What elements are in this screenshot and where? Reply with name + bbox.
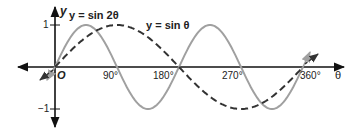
sin2-legend-label: y = sin 2θ: [69, 10, 119, 21]
x-tick-label-360: 360°: [300, 71, 321, 81]
y-axis-label: y: [60, 5, 67, 17]
origin-label: O: [57, 70, 66, 81]
sin1-arrow-left: [40, 70, 53, 80]
y-tick-label-1: 1: [43, 20, 49, 30]
sin1-legend-label: y = sin θ: [146, 20, 190, 31]
y-tick-label-minus1: −1: [38, 104, 49, 114]
x-tick-label-270: 270°: [222, 71, 243, 81]
x-tick-label-90: 90°: [103, 71, 118, 81]
x-axis-label: θ: [335, 70, 341, 81]
x-tick-label-180: 180°: [153, 71, 174, 81]
sin2-arrow-right: [303, 52, 310, 67]
